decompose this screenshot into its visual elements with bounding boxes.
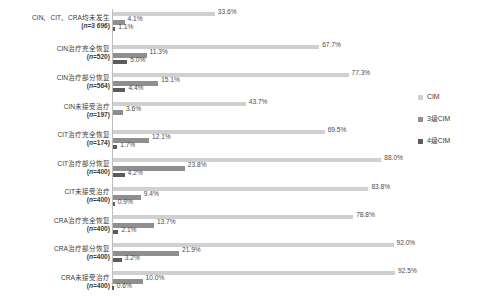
bar-value-label-grade-3-cim: 13.7%	[157, 218, 176, 225]
bar-cim	[112, 243, 394, 247]
category-label: CIT治疗部分恢复(n=400)	[4, 160, 110, 176]
category-label-sample-size: (n=3 696)	[4, 22, 110, 30]
legend-swatch-icon	[418, 139, 423, 144]
category-label-sample-size: (n=400)	[4, 253, 110, 261]
category-label-name: CIT治疗部分恢复	[4, 160, 110, 168]
bar-value-label-grade-3-cim: 10.0%	[146, 274, 165, 281]
bar-value-label-cim: 88.0%	[384, 154, 403, 161]
bar-cim	[112, 158, 381, 162]
bar-cim	[112, 45, 319, 49]
category-label: CRA治疗完全恢复(n=400)	[4, 217, 110, 233]
bar-value-label-grade-4-cim: 0.6%	[117, 282, 132, 289]
category-label-sample-size: (n=400)	[4, 196, 110, 204]
category-label: CRA治疗部分恢复(n=400)	[4, 245, 110, 261]
bar-value-label-cim: 92.5%	[398, 267, 417, 274]
category-label-name: CIT未接受治疗	[4, 188, 110, 196]
plot-area: CIN、CIT、CRA均未发生(n=3 696)33.6%4.1%1.1%CIN…	[0, 0, 479, 299]
bar-value-label-cim: 92.0%	[397, 239, 416, 246]
chart-container: CIN、CIT、CRA均未发生(n=3 696)33.6%4.1%1.1%CIN…	[0, 0, 479, 299]
category-label: CIN治疗完全恢复(n=520)	[4, 45, 110, 61]
category-label-name: CIT治疗完全恢复	[4, 131, 110, 139]
bar-value-label-grade-3-cim: 12.1%	[152, 133, 171, 140]
bar-value-label-grade-3-cim: 21.9%	[182, 246, 201, 253]
category-label-sample-size: (n=564)	[4, 82, 110, 90]
bar-value-label-cim: 78.8%	[356, 211, 375, 218]
category-label-sample-size: (n=174)	[4, 139, 110, 147]
category-label-name: CRA未接受治疗	[4, 274, 110, 282]
category-label: CIN未接受治疗(n=197)	[4, 103, 110, 119]
bar-value-label-grade-3-cim: 4.1%	[128, 15, 143, 22]
bar-grade-4-cim	[112, 60, 127, 64]
bar-grade-3-cim	[112, 251, 179, 256]
category-label-sample-size: (n=400)	[4, 168, 110, 176]
legend-swatch-icon	[418, 95, 423, 100]
category-label: CRA未接受治疗(n=400)	[4, 274, 110, 290]
bar-grade-4-cim	[112, 173, 125, 177]
bar-value-label-grade-3-cim: 9.4%	[144, 190, 159, 197]
bar-cim	[112, 215, 353, 219]
bar-value-label-grade-3-cim: 15.1%	[161, 76, 180, 83]
category-label: CIT未接受治疗(n=400)	[4, 188, 110, 204]
category-label-sample-size: (n=400)	[4, 225, 110, 233]
bar-value-label-grade-4-cim: 4.4%	[128, 84, 143, 91]
legend-item[interactable]: CIM	[418, 92, 476, 114]
legend-label: 4级CIM	[427, 136, 450, 146]
legend-label: 3级CIM	[427, 114, 450, 124]
bar-value-label-grade-4-cim: 3.2%	[125, 254, 140, 261]
bar-value-label-grade-4-cim: 5.0%	[130, 56, 145, 63]
value-axis-line	[112, 9, 113, 286]
bar-value-label-grade-4-cim: 4.2%	[128, 169, 143, 176]
legend-item[interactable]: 4级CIM	[418, 136, 476, 158]
bar-value-label-cim: 33.6%	[218, 8, 237, 15]
legend-swatch-icon	[418, 117, 423, 122]
category-label: CIN治疗部分恢复(n=564)	[4, 74, 110, 90]
bar-value-label-cim: 77.3%	[352, 69, 371, 76]
bar-value-label-grade-4-cim: 2.1%	[121, 226, 136, 233]
category-label: CIN、CIT、CRA均未发生(n=3 696)	[4, 14, 110, 30]
legend-item[interactable]: 3级CIM	[418, 114, 476, 136]
category-label-name: CRA治疗部分恢复	[4, 245, 110, 253]
category-label-name: CIN未接受治疗	[4, 103, 110, 111]
bar-grade-4-cim	[112, 88, 125, 92]
category-label-name: CRA治疗完全恢复	[4, 217, 110, 225]
bar-grade-4-cim	[112, 286, 114, 290]
bar-value-label-grade-4-cim: 0.9%	[118, 198, 133, 205]
bar-value-label-grade-4-cim: 1.7%	[120, 141, 135, 148]
bar-value-label-grade-4-cim: 1.1%	[118, 23, 133, 30]
bar-value-label-grade-3-cim: 3.6%	[126, 105, 141, 112]
category-label-sample-size: (n=400)	[4, 282, 110, 290]
bar-grade-3-cim	[112, 110, 123, 115]
bar-grade-3-cim	[112, 166, 185, 171]
legend-label: CIM	[427, 92, 439, 102]
category-label: CIT治疗完全恢复(n=174)	[4, 131, 110, 147]
bar-value-label-cim: 43.7%	[249, 98, 268, 105]
bar-value-label-grade-3-cim: 11.3%	[150, 48, 168, 55]
category-label-sample-size: (n=197)	[4, 111, 110, 119]
bar-value-label-cim: 83.8%	[371, 183, 390, 190]
bar-value-label-grade-3-cim: 23.8%	[188, 161, 207, 168]
bar-value-label-cim: 69.5%	[328, 126, 347, 133]
category-label-name: CIN治疗部分恢复	[4, 74, 110, 82]
category-label-sample-size: (n=520)	[4, 53, 110, 61]
bar-value-label-cim: 67.7%	[322, 41, 341, 48]
bar-grade-4-cim	[112, 258, 122, 262]
bar-cim	[112, 130, 325, 134]
bar-cim	[112, 73, 349, 77]
category-label-name: CIN、CIT、CRA均未发生	[4, 14, 110, 22]
category-label-name: CIN治疗完全恢复	[4, 45, 110, 53]
chart-legend: CIM3级CIM4级CIM	[418, 92, 476, 158]
